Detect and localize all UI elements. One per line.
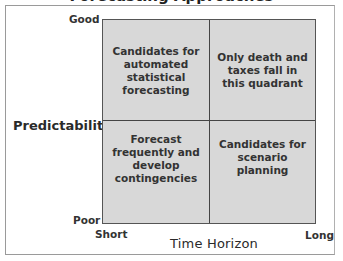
- quadrant-bottom-right-text: Candidates for scenario planning: [216, 138, 309, 177]
- vertical-divider: [209, 20, 210, 223]
- quadrant-top-left-text: Candidates for automated statistical for…: [109, 43, 203, 97]
- y-axis-low-label: Poor: [73, 214, 100, 226]
- x-axis-high-label: Long: [305, 229, 334, 241]
- quadrant-bottom-right: Candidates for scenario planning: [210, 121, 315, 223]
- quadrant-top-right-text: Only death and taxes fall in this quadra…: [216, 51, 309, 90]
- y-axis-high-label: Good: [69, 13, 100, 25]
- quadrant-top-right: Only death and taxes fall in this quadra…: [210, 20, 315, 120]
- x-axis-title: Time Horizon: [170, 236, 258, 251]
- quadrant-bottom-left-text: Forecast frequently and develop continge…: [109, 131, 203, 185]
- quadrant-bottom-left: Forecast frequently and develop continge…: [103, 121, 209, 223]
- diagram-canvas: Forecasting Approaches Good Poor Predict…: [0, 0, 343, 261]
- quadrant-top-left: Candidates for automated statistical for…: [103, 20, 209, 120]
- horizontal-divider: [103, 120, 315, 121]
- y-axis-title: Predictability: [13, 118, 112, 133]
- quadrant-grid: Candidates for automated statistical for…: [102, 19, 316, 224]
- x-axis-low-label: Short: [95, 228, 127, 240]
